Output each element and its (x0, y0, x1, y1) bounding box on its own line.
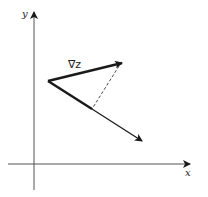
y-axis-label: y (22, 9, 28, 19)
gradient-vector (48, 63, 122, 81)
x-axis-label: x (185, 168, 191, 178)
gradient-diagram (0, 0, 208, 197)
direction-vector-component (48, 81, 92, 109)
projection-line (92, 66, 119, 109)
direction-vector (92, 109, 142, 141)
gradient-label: ∇z (68, 59, 81, 70)
